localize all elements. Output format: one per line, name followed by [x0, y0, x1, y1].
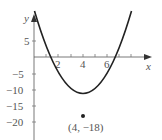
parabola-curve	[35, 11, 132, 94]
y-tick-label: −5	[12, 68, 24, 80]
y-tick-label: −10	[6, 84, 24, 96]
y-tick-label: 5	[24, 35, 30, 47]
x-axis-label: x	[145, 60, 151, 72]
vertex-point	[81, 114, 85, 118]
y-tick-label: −15	[6, 100, 24, 112]
x-tick-label: 4	[80, 58, 86, 70]
y-axis	[31, 14, 37, 140]
x-ticks	[46, 54, 131, 57]
parabola-chart: y x 5 −5 −10 −15 −20 2 4 6 (4, −18)	[0, 0, 162, 140]
y-tick-label: −20	[6, 116, 24, 128]
vertex-annotation: (4, −18)	[68, 121, 104, 134]
y-axis-label: y	[23, 12, 29, 24]
